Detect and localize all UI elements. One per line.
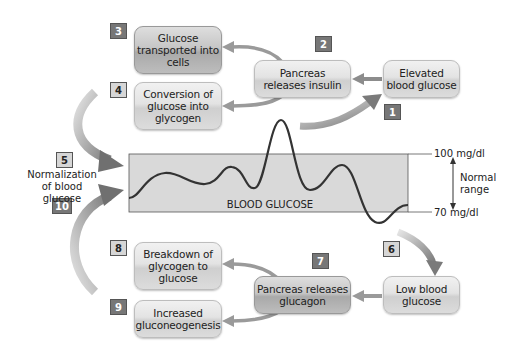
label-line: Normalization <box>27 169 97 180</box>
step-badge-9: 9 <box>110 299 127 315</box>
box-line: transported into <box>137 44 219 56</box>
box-line: Elevated <box>399 67 443 79</box>
box-low-glucose: Low bloodglucose <box>383 276 460 314</box>
box-line: blood glucose <box>386 79 456 91</box>
box-glucose-transported: Glucosetransported intocells <box>134 26 222 74</box>
box-line: Conversion of <box>143 88 213 100</box>
step-badge-7: 7 <box>312 253 329 269</box>
range-arrow-icon <box>450 157 456 210</box>
upper-threshold-label: 100 mg/dl <box>434 148 485 160</box>
box-line: glucagon <box>279 295 326 307</box>
box-conversion-glycogen: Conversion ofglucose intoglycogen <box>134 82 222 130</box>
box-line: Pancreas releases <box>257 283 348 295</box>
label-line: range <box>460 184 489 195</box>
label-line: of blood glucose <box>42 181 83 204</box>
step-badge-8: 8 <box>110 240 127 256</box>
normalization-label: Normalization of blood glucose <box>22 169 102 205</box>
arrow-normalization-top <box>78 92 124 172</box>
arrow-peak-to-elevated <box>300 94 382 126</box>
step-badge-4: 4 <box>110 82 127 98</box>
box-gluconeogenesis: Increasedgluconeogenesis <box>134 300 222 338</box>
arrow-low-to-glucagon <box>352 290 382 302</box>
box-line: Increased <box>153 307 202 319</box>
box-line: Pancreas <box>280 67 326 79</box>
box-line: glucose <box>402 295 441 307</box>
box-line: releases insulin <box>263 79 341 91</box>
box-pancreas-insulin: Pancreasreleases insulin <box>254 60 351 98</box>
box-line: gluconeogenesis <box>135 319 220 331</box>
box-line: glycogen <box>155 112 201 124</box>
box-line: glucose into <box>147 100 208 112</box>
box-line: Breakdown of <box>143 248 213 260</box>
box-line: cells <box>167 56 190 68</box>
arrow-trough-to-low <box>398 232 443 276</box>
box-line: Low blood <box>396 283 447 295</box>
blood-glucose-label: BLOOD GLUCOSE <box>210 199 330 211</box>
box-line: Glucose <box>158 32 198 44</box>
step-badge-5: 5 <box>56 152 73 168</box>
lower-threshold-label: 70 mg/dl <box>434 207 479 219</box>
step-badge-6: 6 <box>383 241 400 257</box>
step-badge-3: 3 <box>110 23 127 39</box>
step-badge-2: 2 <box>315 36 332 52</box>
label-line: Normal <box>460 172 496 183</box>
step-badge-1: 1 <box>384 104 401 120</box>
arrow-elevated-to-insulin <box>352 73 382 85</box>
box-line: glucose <box>159 272 198 284</box>
normal-range-label: Normal range <box>460 172 496 196</box>
box-line: glycogen to <box>148 260 207 272</box>
box-pancreas-glucagon: Pancreas releasesglucagon <box>254 276 351 314</box>
box-breakdown-glycogen: Breakdown ofglycogen toglucose <box>134 242 222 290</box>
box-elevated-glucose: Elevatedblood glucose <box>383 60 460 98</box>
